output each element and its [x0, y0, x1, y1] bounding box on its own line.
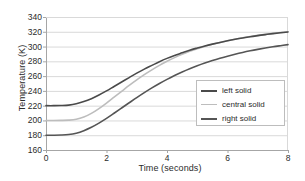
legend-item-label: central solid	[222, 101, 265, 109]
legend-item[interactable]: right solid	[201, 112, 280, 125]
legend-line-swatch	[201, 118, 217, 120]
x-tick-label: 4	[157, 154, 177, 163]
x-axis-title: Time (seconds)	[45, 163, 295, 173]
legend-item[interactable]: left solid	[201, 84, 280, 97]
legend-line-swatch	[201, 90, 217, 92]
legend-line-swatch	[201, 104, 217, 105]
x-tick-label: 0	[36, 154, 56, 163]
legend-item-label: left solid	[222, 87, 251, 95]
x-tick-label: 6	[218, 154, 238, 163]
legend-item[interactable]: central solid	[201, 98, 280, 111]
chart-legend: left solidcentral solidright solid	[196, 80, 285, 126]
temperature-vs-time-line-chart: Temperature (K) 160180200220240260280300…	[0, 0, 305, 181]
x-tick-label: 8	[278, 154, 298, 163]
x-tick-label: 2	[97, 154, 117, 163]
legend-item-label: right solid	[222, 115, 256, 123]
